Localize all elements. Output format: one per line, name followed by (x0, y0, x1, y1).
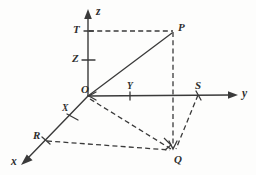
point-label-S: S (195, 80, 201, 91)
y-axis-arrowhead (228, 91, 238, 98)
point-label-X: X (62, 104, 68, 114)
axis-label-y: y (242, 88, 247, 100)
point-label-R: R (33, 130, 40, 141)
segment-SQ (176, 95, 198, 149)
segment-OQ (90, 99, 171, 149)
y-axis (88, 91, 238, 98)
x-axis (21, 96, 88, 165)
coordinate-diagram: z y x T Z O X Y P Q R S (0, 0, 256, 175)
segment-RQ (47, 141, 170, 150)
x-axis-arrowhead (21, 155, 33, 165)
point-label-Z: Z (72, 53, 79, 64)
point-label-T: T (73, 24, 80, 35)
point-label-Y: Y (127, 82, 133, 92)
axis-label-x: x (11, 156, 17, 168)
point-label-Q: Q (174, 154, 182, 165)
point-label-O: O (81, 84, 89, 95)
point-label-P: P (178, 22, 185, 33)
axis-label-z: z (96, 6, 100, 18)
z-axis-arrowhead (84, 9, 92, 19)
